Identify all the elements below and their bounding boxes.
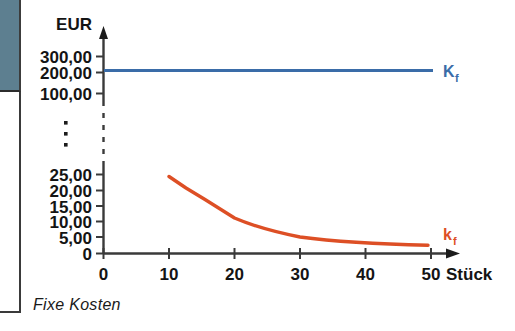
x-tick-label-40: 40 xyxy=(356,265,375,284)
series-line-fixed-per-unit xyxy=(169,177,428,246)
x-axis-unit-label: Stück xyxy=(446,265,493,284)
x-tick-label-10: 10 xyxy=(160,265,179,284)
series-label-fixed-per-unit: k f xyxy=(443,226,457,247)
ellipsis-dot-2 xyxy=(64,132,68,136)
x-tick-label-30: 30 xyxy=(291,265,310,284)
x-axis xyxy=(104,249,461,259)
ellipsis-dot-1 xyxy=(64,121,68,125)
x-tick-label-0: 0 xyxy=(99,265,108,284)
series-label-fixed-per-unit-text: k xyxy=(443,226,452,243)
y-axis-arrowhead xyxy=(99,26,108,39)
chart-canvas: EUR 300,00 200,00 100,00 25,00 20,00 15,… xyxy=(0,0,515,331)
y-axis xyxy=(99,26,108,254)
ellipsis-dot-3 xyxy=(64,143,68,147)
figure-caption: Fixe Kosten xyxy=(33,296,121,314)
x-tick-label-20: 20 xyxy=(225,265,244,284)
y-tick-label-100: 100,00 xyxy=(40,85,92,104)
y-tick-label-0: 0 xyxy=(83,245,92,264)
series-label-fixed-total-text: K xyxy=(443,63,455,80)
y-axis-unit-label: EUR xyxy=(56,15,92,34)
x-tick-label-50: 50 xyxy=(422,265,441,284)
series-label-fixed-total-sub: f xyxy=(455,72,459,84)
figure-fixe-kosten: EUR 300,00 200,00 100,00 25,00 20,00 15,… xyxy=(0,0,515,331)
x-axis-arrowhead xyxy=(446,249,460,259)
y-tick-label-200: 200,00 xyxy=(40,64,92,83)
y-axis-break-ellipsis xyxy=(64,121,68,147)
series-label-fixed-per-unit-sub: f xyxy=(453,235,457,247)
series-label-fixed-total: K f xyxy=(443,63,459,84)
